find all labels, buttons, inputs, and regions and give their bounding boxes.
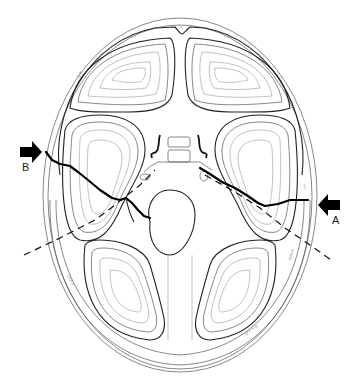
- middle-cranial-fossa-left: [63, 115, 145, 241]
- middle-cranial-fossa-right: [215, 115, 297, 241]
- foramen-magnum: [149, 190, 195, 340]
- label-a: A: [332, 214, 339, 226]
- skull-outline: [43, 18, 317, 372]
- svg-text:ஜசநக: ஜசநக: [286, 248, 295, 260]
- skull-base-diagram: ஜசக ஜசநக ஞக ஜசநக ஜசநக ஜ ஜ: [0, 0, 359, 377]
- posterior-cranial-fossa-left: [84, 240, 164, 340]
- arrow-right-icon: [20, 141, 42, 163]
- posterior-cranial-fossa-right: [196, 240, 276, 340]
- fracture-line-right: [200, 168, 308, 206]
- label-b: B: [22, 161, 29, 173]
- anterior-cranial-fossa-right: [185, 38, 290, 112]
- anterior-cranial-fossa-left: [70, 38, 175, 112]
- fracture-line: [46, 152, 150, 218]
- arrow-left-icon: [318, 194, 340, 216]
- svg-text:ஞக: ஞக: [301, 183, 307, 190]
- sella-turcica: [140, 135, 212, 181]
- svg-text:ஜசநக: ஜசநக: [66, 274, 75, 286]
